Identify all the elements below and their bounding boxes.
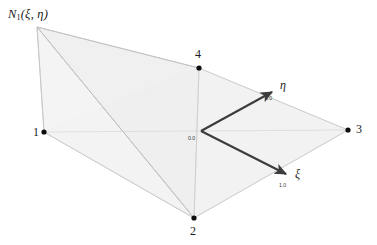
node-marker-2 [191,215,196,220]
node-marker-4 [196,65,201,70]
node-marker-1 [41,129,46,134]
node-marker-3 [345,127,350,132]
shape-function-surface-plot [0,0,377,245]
